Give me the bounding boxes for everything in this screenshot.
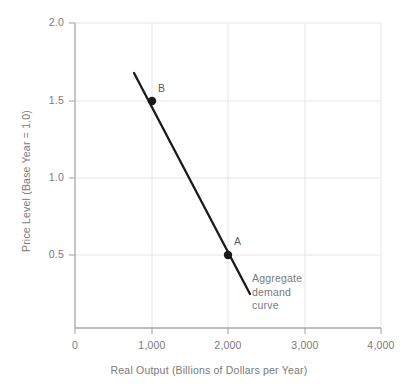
data-point-b [148,97,156,105]
y-tick-marks [69,23,75,255]
curve-annotation-line-2: demand [252,286,302,300]
aggregate-demand-curve-line [134,73,250,294]
x-tick-label-3000: 3,000 [282,339,328,351]
curve-annotation-line-3: curve [252,299,302,313]
point-label-a: A [234,235,241,247]
x-tick-label-1000: 1,000 [129,339,175,351]
y-tick-label-0-5: 0.5 [30,248,64,260]
point-label-b: B [158,82,165,94]
x-tick-label-4000: 4,000 [358,339,404,351]
data-point-a [224,251,232,259]
y-tick-label-1-5: 1.5 [30,94,64,106]
aggregate-demand-chart: 2.0 1.5 1.0 0.5 0 1,000 2,000 3,000 4,00… [0,0,418,387]
x-tick-marks [75,328,381,334]
curve-annotation: Aggregate demand curve [252,272,302,313]
y-tick-label-1-0: 1.0 [30,171,64,183]
chart-canvas [0,0,418,387]
x-tick-label-2000: 2,000 [205,339,251,351]
curve-annotation-line-1: Aggregate [252,272,302,286]
x-axis-title: Real Output (Billions of Dollars per Yea… [0,364,418,376]
y-tick-label-2-0: 2.0 [30,16,64,28]
x-tick-label-0: 0 [52,339,98,351]
y-axis-title: Price Level (Base Year = 1.0) [20,71,32,291]
